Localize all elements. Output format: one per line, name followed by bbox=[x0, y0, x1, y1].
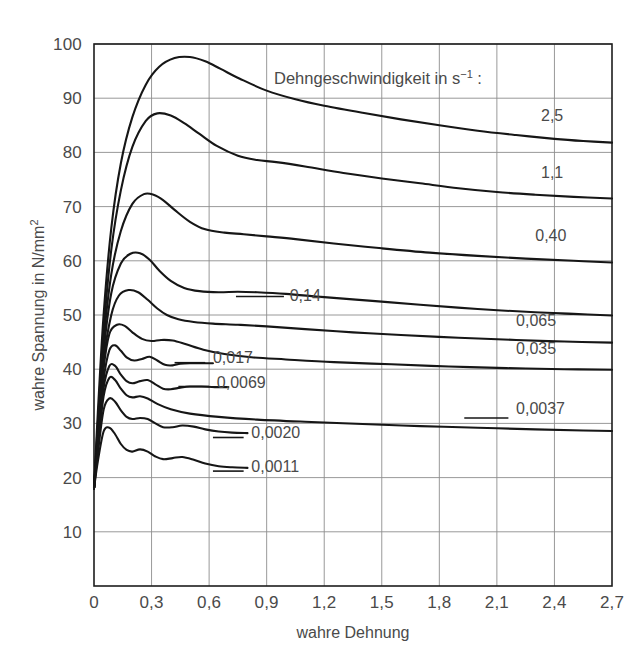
y-tick-label: 80 bbox=[63, 143, 82, 162]
stress-strain-chart: 00,30,60,91,21,51,82,12,42,7 10203040506… bbox=[0, 0, 642, 662]
series-label-2-5: 2,5 bbox=[541, 107, 563, 124]
chart-figure: 00,30,60,91,21,51,82,12,42,7 10203040506… bbox=[0, 0, 642, 662]
y-tick-label: 50 bbox=[63, 306, 82, 325]
y-tick-label: 100 bbox=[53, 35, 82, 54]
y-tick-label: 70 bbox=[63, 198, 82, 217]
legend-title: Dehngeschwindigkeit in s−1 : bbox=[274, 68, 482, 87]
y-axis-title: wahre Spannung in N/mm2 bbox=[28, 219, 47, 411]
y-tick-label: 90 bbox=[63, 89, 82, 108]
x-tick-label: 1,5 bbox=[370, 593, 394, 612]
x-tick-label: 2,4 bbox=[542, 593, 566, 612]
x-tick-label: 1,8 bbox=[427, 593, 451, 612]
y-tick-label: 40 bbox=[63, 360, 82, 379]
series-label-0-0011: 0,0011 bbox=[251, 458, 299, 475]
x-tick-label: 0,3 bbox=[139, 593, 163, 612]
series-label-1-1: 1,1 bbox=[541, 164, 563, 181]
x-tick-label: 2,7 bbox=[600, 593, 624, 612]
series-label-0-40: 0,40 bbox=[535, 227, 566, 244]
y-tick-label: 20 bbox=[63, 469, 82, 488]
x-tick-label: 1,2 bbox=[312, 593, 336, 612]
series-label-0-017: 0,017 bbox=[213, 349, 253, 366]
series-label-0-035: 0,035 bbox=[516, 340, 556, 357]
x-tick-label: 0,6 bbox=[197, 593, 221, 612]
series-label-0-0037: 0,0037 bbox=[516, 400, 565, 417]
series-label-0-065: 0,065 bbox=[516, 312, 556, 329]
series-label-0-0020: 0,0020 bbox=[251, 424, 300, 441]
y-tick-label: 10 bbox=[63, 523, 82, 542]
x-axis-title: wahre Dehnung bbox=[296, 624, 410, 641]
x-tick-label: 2,1 bbox=[485, 593, 509, 612]
series-label-0-0069: 0,0069 bbox=[217, 374, 266, 391]
y-tick-label: 60 bbox=[63, 252, 82, 271]
x-tick-label: 0,9 bbox=[255, 593, 279, 612]
series-label-0-14: 0,14 bbox=[290, 287, 321, 304]
x-tick-label: 0 bbox=[89, 593, 99, 612]
y-tick-label: 30 bbox=[63, 414, 82, 433]
